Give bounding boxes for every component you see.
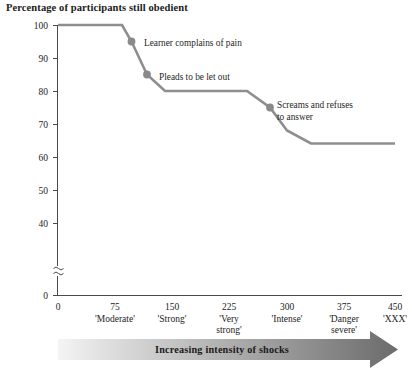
intensity-arrow-label: Increasing intensity of shocks — [155, 344, 289, 355]
chart-container: Percentage of participants still obedien… — [0, 0, 412, 370]
y-tick-label-40: 40 — [39, 219, 49, 229]
x-tick-label-300: 300 — [280, 302, 295, 312]
annotation-screams-line2: to answer — [277, 112, 314, 122]
y-tick-label-0: 0 — [43, 291, 48, 301]
annotation-learner-complains: Learner complains of pain — [144, 38, 242, 48]
y-tick-label-80: 80 — [39, 87, 49, 97]
y-tick-label-90: 90 — [39, 54, 49, 64]
x-tick-label-150: 150 — [165, 302, 180, 312]
data-point-marker-3 — [266, 104, 274, 112]
y-tick-label-60: 60 — [39, 153, 49, 163]
axes-group: 100 90 80 70 60 50 40 0 0 75 150 225 300… — [34, 21, 408, 336]
annotation-screams-line1: Screams and refuses — [277, 100, 353, 110]
x-category-strong: 'Strong' — [158, 314, 187, 324]
intensity-arrow-group: Increasing intensity of shocks — [58, 331, 398, 368]
x-category-danger-severe-line2: severe' — [331, 325, 357, 335]
x-category-xxx: 'XXX' — [383, 314, 407, 324]
x-category-very-strong-line2: strong' — [216, 325, 242, 335]
chart-plot-area: 100 90 80 70 60 50 40 0 0 75 150 225 300… — [0, 0, 412, 370]
y-tick-label-100: 100 — [34, 21, 49, 31]
x-category-moderate: 'Moderate' — [95, 314, 135, 324]
y-tick-label-50: 50 — [39, 186, 49, 196]
x-tick-label-0: 0 — [56, 302, 61, 312]
data-point-marker-1 — [128, 38, 136, 46]
x-tick-label-225: 225 — [222, 302, 237, 312]
y-axis-break-icon — [54, 267, 64, 275]
annotations-group: Learner complains of pain Pleads to be l… — [144, 38, 353, 122]
annotation-pleads-to-be-let-out: Pleads to be let out — [159, 72, 230, 82]
x-tick-label-450: 450 — [388, 302, 403, 312]
x-tick-label-75: 75 — [110, 302, 120, 312]
x-category-intense: 'Intense' — [272, 314, 303, 324]
x-category-danger-severe-line1: 'Danger — [329, 314, 360, 324]
y-tick-label-70: 70 — [39, 120, 49, 130]
x-category-very-strong-line1: 'Very — [219, 314, 239, 324]
data-point-marker-2 — [143, 71, 151, 79]
x-tick-label-375: 375 — [337, 302, 352, 312]
